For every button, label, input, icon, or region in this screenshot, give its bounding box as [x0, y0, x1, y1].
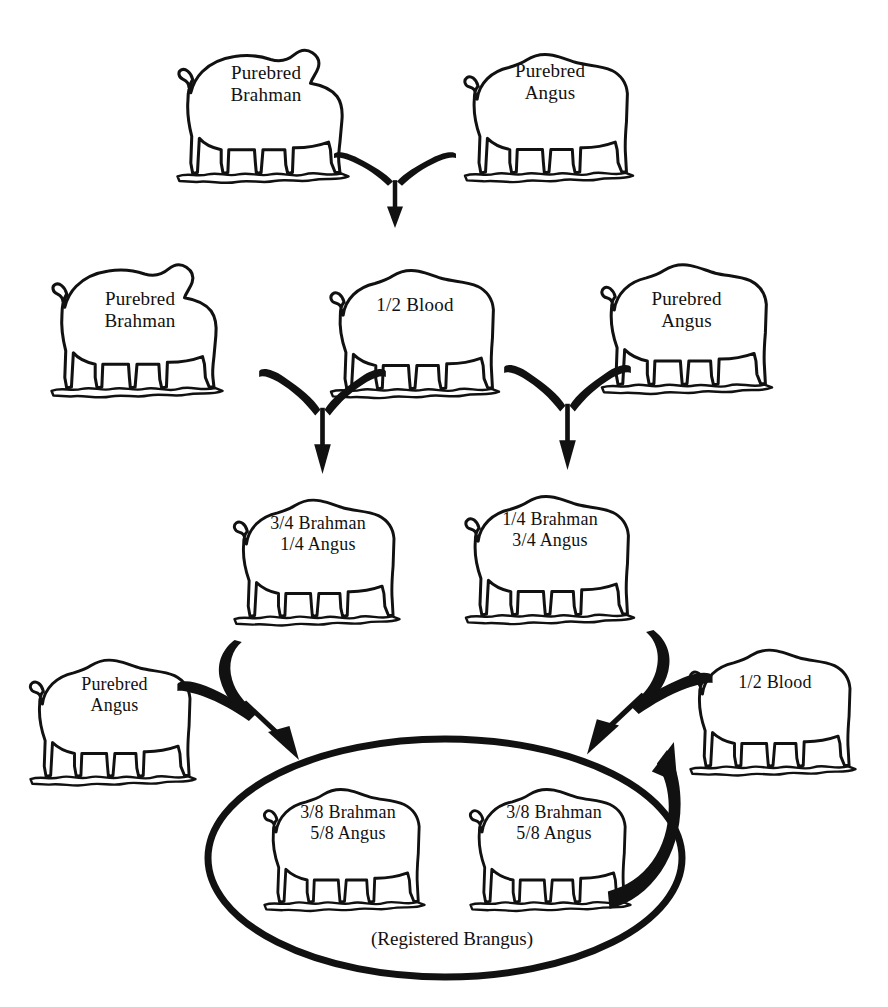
cattle-label-g1-angus: Purebred Angus: [480, 60, 620, 105]
cattle-figure-g1-angus: [455, 32, 643, 200]
cattle-label-g2-angus: Purebred Angus: [614, 288, 759, 333]
cattle-label-g3-right: 1/4 Brahman 3/4 Angus: [470, 509, 630, 551]
cattle-label-g2-brahman: Purebred Brahman: [70, 288, 210, 333]
cattle-label-g2-half: 1/2 Blood: [340, 294, 490, 316]
cattle-figure-g3-left: [222, 478, 412, 643]
cattle-label-g1-brahman: Purebred Brahman: [196, 62, 336, 107]
cattle-label-g4-half: 1/2 Blood: [700, 672, 850, 693]
cattle-label-g3-left: 3/4 Brahman 1/4 Angus: [238, 513, 398, 555]
cattle-label-g4-angus: Purebred Angus: [42, 674, 187, 716]
cattle-label-g5-left: 3/8 Brahman 5/8 Angus: [268, 802, 428, 844]
arrow-brangus-mating-arc: [596, 742, 706, 917]
cattle-figure-g3-right: [455, 474, 645, 642]
arrow-merge-gen3-left: [175, 640, 330, 770]
breeding-diagram-canvas: Purebred BrahmanPurebred AngusPurebred B…: [0, 0, 888, 1007]
registered-brangus-caption: (Registered Brangus): [282, 928, 622, 950]
arrow-merge-gen1: [330, 140, 460, 230]
arrow-merge-gen2-left: [255, 352, 390, 477]
cattle-figure-g5-left: [252, 768, 437, 928]
arrow-merge-gen2-right: [500, 348, 635, 473]
